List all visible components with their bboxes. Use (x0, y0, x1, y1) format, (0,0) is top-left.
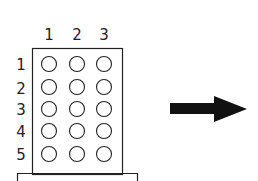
well-circle (70, 57, 85, 72)
arrow-right-icon (170, 96, 247, 122)
well-circle (97, 57, 112, 72)
well-circle (70, 124, 85, 139)
row-label: 5 (16, 146, 26, 164)
tray-frame (33, 49, 123, 175)
tray-diagram: 1 2 3 1 2 3 4 5 (0, 0, 258, 181)
well-circle (42, 57, 57, 72)
column-label: 3 (99, 26, 109, 44)
column-label: 2 (72, 26, 82, 44)
well-circle (42, 80, 57, 95)
row-label: 1 (16, 56, 26, 74)
well-circle (97, 124, 112, 139)
column-label: 1 (44, 26, 54, 44)
well-circle (42, 147, 57, 162)
well-grid (42, 57, 112, 162)
well-circle (97, 147, 112, 162)
well-circle (97, 80, 112, 95)
well-circle (70, 102, 85, 117)
row-label: 2 (16, 80, 26, 98)
row-label: 4 (16, 123, 26, 141)
well-circle (70, 147, 85, 162)
row-label: 3 (16, 101, 26, 119)
well-circle (42, 124, 57, 139)
well-circle (70, 80, 85, 95)
well-circle (97, 102, 112, 117)
well-circle (42, 102, 57, 117)
